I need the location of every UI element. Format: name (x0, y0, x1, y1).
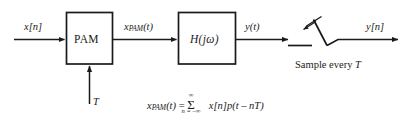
filter-output-signal-label: y(t) (245, 22, 260, 33)
pam-output-signal-label: xPAM(t) (124, 22, 153, 33)
sum-upper-limit: ∞ (189, 92, 194, 99)
sampler-output-arrow (327, 40, 398, 46)
switch-motion-arrow (304, 22, 317, 30)
clock-signal-label: T (93, 97, 99, 108)
filter-block-label: H(jω) (190, 33, 219, 45)
pam-output-argument: (t) (143, 21, 153, 32)
input-signal-label: x[n] (24, 22, 42, 33)
pam-equation: xPAM(t) = Σ∞n = –∞x[n]p(t – nT) (147, 98, 264, 112)
pam-output-subscript: PAM (129, 24, 143, 33)
switch-cross-stroke (307, 17, 322, 27)
equation-lhs-argument: (t) (166, 100, 176, 111)
equation-summation: Σ∞n = –∞ (187, 98, 195, 112)
equation-rhs: x[n]p(t – nT) (209, 100, 264, 111)
sampler-caption-text: Sample every (295, 59, 355, 70)
sampler-caption: Sample every T (295, 60, 361, 71)
sampler-caption-symbol: T (355, 59, 361, 70)
equation-lhs-subscript: PAM (152, 103, 166, 112)
switch-blade (314, 20, 328, 46)
sampled-output-signal-label: y[n] (366, 22, 384, 33)
pam-block-label: PAM (74, 33, 99, 45)
sum-lower-limit: n = –∞ (182, 108, 201, 115)
pam-block-diagram: PAM H(jω) x[n] xPAM(t) y(t) y[n] T Sampl… (0, 0, 410, 126)
